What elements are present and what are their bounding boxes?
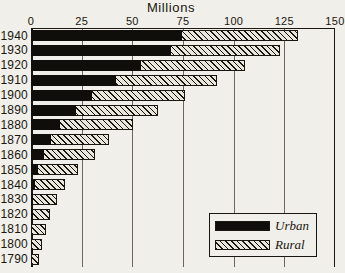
- bar-row: 1830: [31, 193, 334, 206]
- x-tick-label-25: 25: [75, 15, 88, 27]
- bar-segment-rural: [31, 209, 50, 220]
- bar-segment-urban: [31, 164, 38, 175]
- bar-segment-urban: [31, 30, 182, 41]
- bar-segment-urban: [31, 134, 51, 145]
- bar-row: 1940: [31, 29, 334, 42]
- legend-swatch-rural-icon: [215, 240, 270, 250]
- bar-segment-urban: [31, 194, 33, 205]
- year-label-1820: 1820: [1, 207, 29, 221]
- bar-row: 1920: [31, 59, 334, 72]
- x-tick-label-100: 100: [224, 15, 243, 27]
- bar-segment-rural: [31, 239, 42, 250]
- bar-segment-urban: [31, 90, 92, 101]
- bar-segment-rural: [31, 194, 57, 205]
- bar-row: 1930: [31, 44, 334, 57]
- year-label-1910: 1910: [1, 73, 29, 87]
- x-tick-label-0: 0: [28, 15, 34, 27]
- chart-title-text: Millions: [147, 0, 195, 15]
- bar-segment-urban: [31, 105, 76, 116]
- year-label-1790: 1790: [1, 252, 29, 266]
- bar-row: 1910: [31, 74, 334, 87]
- bar-segment-rural: [31, 254, 39, 265]
- chart-title: Millions: [0, 0, 336, 15]
- year-label-1840: 1840: [1, 177, 29, 191]
- legend-item-urban: Urban: [215, 218, 309, 233]
- bar-row: 1840: [31, 178, 334, 191]
- year-label-1880: 1880: [1, 118, 29, 132]
- bar-row: 1870: [31, 133, 334, 146]
- bar-segment-urban: [31, 75, 116, 86]
- bar-segment-urban: [31, 179, 35, 190]
- year-label-1830: 1830: [1, 192, 29, 206]
- legend-swatch-urban-icon: [215, 221, 270, 231]
- x-tick-label-150: 150: [325, 15, 344, 27]
- year-label-1860: 1860: [1, 147, 29, 161]
- legend-item-rural: Rural: [215, 237, 309, 252]
- x-axis-tick-labels: 0255075100125150: [0, 15, 336, 27]
- bar-row: 1890: [31, 104, 334, 117]
- bar-segment-urban: [31, 60, 141, 71]
- year-label-1940: 1940: [1, 28, 29, 42]
- year-label-1810: 1810: [1, 222, 29, 236]
- x-tick-label-75: 75: [177, 15, 190, 27]
- plot-area: 1940193019201910190018901880187018601850…: [31, 28, 335, 267]
- x-tick-label-125: 125: [275, 15, 294, 27]
- bar-segment-urban: [31, 149, 44, 160]
- year-label-1890: 1890: [1, 103, 29, 117]
- bar-row: 1860: [31, 148, 334, 161]
- year-label-1870: 1870: [1, 133, 29, 147]
- year-label-1930: 1930: [1, 43, 29, 57]
- year-label-1850: 1850: [1, 162, 29, 176]
- year-label-1920: 1920: [1, 58, 29, 72]
- bar-row: 1880: [31, 118, 334, 131]
- bar-segment-urban: [31, 119, 60, 130]
- legend-label-urban: Urban: [275, 218, 309, 234]
- bar-segment-rural: [31, 179, 65, 190]
- x-tick-label-50: 50: [126, 15, 139, 27]
- bar-segment-urban: [31, 45, 171, 56]
- chart-legend: Urban Rural: [209, 213, 317, 257]
- bar-segment-urban: [31, 209, 33, 220]
- legend-label-rural: Rural: [275, 237, 305, 253]
- year-label-1900: 1900: [1, 88, 29, 102]
- bar-row: 1900: [31, 89, 334, 102]
- year-label-1800: 1800: [1, 237, 29, 251]
- bar-segment-rural: [31, 224, 46, 235]
- bar-row: 1850: [31, 163, 334, 176]
